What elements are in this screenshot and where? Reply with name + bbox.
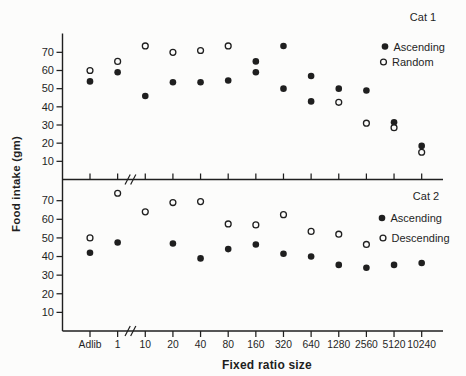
- data-point-open: [198, 199, 204, 205]
- x-tick-label: Adlib: [79, 339, 102, 350]
- data-point-open: [142, 43, 148, 49]
- data-point-open: [87, 68, 93, 74]
- data-point-filled: [308, 98, 315, 105]
- data-point-open: [391, 125, 397, 131]
- data-point-open: [419, 149, 425, 155]
- y-tick-label: 70: [42, 194, 54, 206]
- data-point-filled: [197, 79, 204, 86]
- y-tick-label: 60: [42, 213, 54, 225]
- data-point-open: [142, 209, 148, 215]
- data-point-open: [363, 241, 369, 247]
- data-point-filled: [280, 43, 287, 50]
- data-point-filled: [142, 93, 149, 100]
- x-tick-label: 640: [303, 339, 320, 350]
- x-tick-label: 1: [115, 339, 121, 350]
- x-tick-label: 40: [195, 339, 207, 350]
- x-axis-title: Fixed ratio size: [222, 358, 312, 372]
- data-point-filled: [87, 250, 94, 257]
- data-point-open: [281, 212, 287, 218]
- data-point-open: [336, 231, 342, 237]
- panel-label: Cat 1: [410, 11, 436, 23]
- y-tick-label: 50: [42, 82, 54, 94]
- data-point-filled: [335, 262, 342, 269]
- x-tick-label: 10: [140, 339, 152, 350]
- data-point-filled: [363, 87, 370, 94]
- y-tick-label: 40: [42, 250, 54, 262]
- data-point-filled: [87, 78, 94, 85]
- legend-marker-open-icon: [380, 235, 386, 241]
- panel-label: Cat 2: [413, 190, 439, 202]
- legend-marker-filled-icon: [379, 215, 386, 222]
- data-point-filled: [308, 73, 315, 80]
- legend-marker-open-icon: [381, 59, 387, 65]
- x-tick-label: 80: [222, 339, 234, 350]
- y-tick-label: 70: [42, 46, 54, 58]
- y-tick-label: 20: [42, 137, 54, 149]
- x-tick-label: 20: [167, 339, 179, 350]
- y-tick-label: 60: [42, 64, 54, 76]
- scatter-chart: 10203040506070Cat 1AscendingRandom102030…: [0, 0, 466, 376]
- x-tick-label: 1280: [327, 339, 350, 350]
- data-point-filled: [280, 85, 287, 92]
- data-point-filled: [114, 239, 121, 246]
- x-tick-label: 10240: [407, 339, 436, 350]
- data-point-open: [198, 48, 204, 54]
- legend-label: Ascending: [394, 41, 445, 53]
- data-point-filled: [225, 246, 232, 253]
- legend-marker-filled-icon: [382, 43, 389, 50]
- data-point-filled: [225, 77, 232, 84]
- x-tick-label: 2560: [355, 339, 378, 350]
- figure-container: 10203040506070Cat 1AscendingRandom102030…: [0, 0, 466, 376]
- y-tick-label: 30: [42, 119, 54, 131]
- data-point-open: [308, 228, 314, 234]
- y-axis-title: Food intake (gm): [10, 136, 22, 232]
- data-point-open: [87, 235, 93, 241]
- data-point-filled: [308, 253, 315, 260]
- data-point-filled: [418, 260, 425, 267]
- y-tick-label: 50: [42, 232, 54, 244]
- y-tick-label: 20: [42, 288, 54, 300]
- y-tick-label: 10: [42, 306, 54, 318]
- data-point-open: [115, 58, 121, 64]
- data-point-open: [115, 190, 121, 196]
- y-tick-label: 10: [42, 155, 54, 167]
- data-point-open: [363, 120, 369, 126]
- data-point-open: [225, 43, 231, 49]
- legend-label: Random: [392, 56, 434, 68]
- legend-label: Descending: [392, 232, 450, 244]
- data-point-open: [225, 221, 231, 227]
- data-point-open: [170, 49, 176, 55]
- data-point-filled: [197, 255, 204, 262]
- data-point-open: [170, 200, 176, 206]
- data-point-open: [336, 99, 342, 105]
- legend-label: Ascending: [391, 212, 442, 224]
- data-point-filled: [363, 264, 370, 271]
- data-point-filled: [418, 143, 425, 150]
- y-tick-label: 40: [42, 101, 54, 113]
- data-point-filled: [170, 240, 177, 247]
- data-point-filled: [253, 241, 260, 248]
- data-point-filled: [253, 58, 260, 65]
- data-point-filled: [280, 250, 287, 257]
- data-point-open: [253, 222, 259, 228]
- data-point-filled: [253, 69, 260, 76]
- x-tick-label: 5120: [383, 339, 406, 350]
- data-point-filled: [114, 69, 121, 76]
- x-tick-label: 160: [247, 339, 264, 350]
- data-point-filled: [335, 85, 342, 92]
- data-point-filled: [391, 262, 398, 269]
- y-tick-label: 30: [42, 269, 54, 281]
- x-tick-label: 320: [275, 339, 292, 350]
- data-point-filled: [170, 79, 177, 86]
